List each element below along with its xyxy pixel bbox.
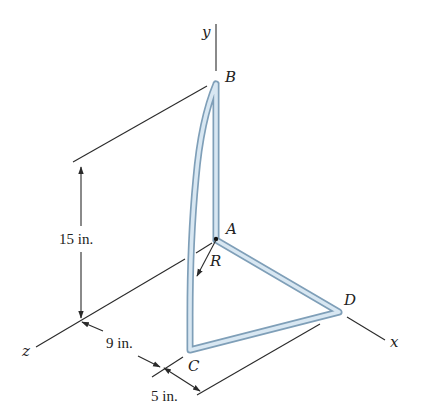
z-axis (36, 321, 80, 347)
point-b-label: B (224, 68, 236, 86)
c-extension-tick (152, 357, 183, 377)
x-axis-label: x (390, 333, 399, 351)
z-axis-label: z (21, 342, 30, 360)
base-extension-line (80, 259, 185, 321)
x-axis (347, 317, 385, 340)
depth-dimension-label: 9 in. (106, 335, 133, 351)
depth-dimension-line-2 (138, 356, 160, 367)
point-c-label: C (188, 357, 200, 375)
radius-label: R (209, 252, 221, 270)
offset-dimension-label: 5 in. (151, 388, 178, 404)
top-extension-line (73, 86, 207, 162)
rod-fill (190, 84, 339, 350)
point-a-label: A (224, 220, 237, 238)
rod-outline (190, 84, 339, 350)
height-dimension-label: 15 in. (59, 231, 93, 247)
point-d-label: D (343, 291, 356, 309)
depth-dimension-line (82, 322, 103, 331)
rod-assembly-diagram: y x z 15 in. 9 in. 5 in. B A R D C (0, 0, 426, 417)
y-axis-label: y (201, 23, 211, 41)
